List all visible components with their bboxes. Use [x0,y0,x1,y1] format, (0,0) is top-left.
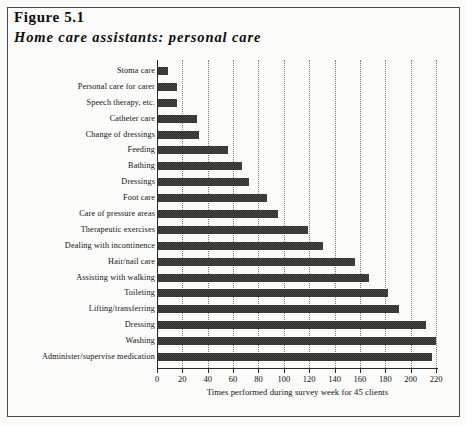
category-label: Bathing [128,162,155,170]
category-label: Administer/supervise medication [42,353,155,361]
x-axis-tick-label: 20 [178,374,187,384]
title-block: Figure 5.1 Home care assistants: persona… [14,8,434,47]
x-axis-tick-label: 120 [303,374,316,384]
category-label: Washing [126,337,156,345]
bar [158,162,242,170]
x-axis-tick-label: 220 [430,374,443,384]
bar [158,99,177,107]
bar [158,289,388,297]
category-label: Catheter care [110,115,155,123]
bar [158,226,308,234]
x-axis-tick-label: 180 [379,374,392,384]
bar [158,337,436,345]
x-axis-tick [258,369,259,373]
figure-subtitle: Home care assistants: personal care [14,28,434,47]
category-label: Speech therapy, etc. [87,99,155,107]
category-label: Dressings [121,178,155,186]
gridline [436,60,437,368]
x-axis-tick-label: 60 [229,374,238,384]
bar [158,321,426,329]
x-axis-tick [309,369,310,373]
x-axis-tick-label: 0 [155,374,159,384]
bar [158,194,267,202]
x-axis-tick [157,369,158,373]
x-axis-tick [411,369,412,373]
bar [158,258,355,266]
x-axis-tick [436,369,437,373]
category-label: Change of dressings [86,131,155,139]
x-axis-tick [284,369,285,373]
x-axis-tick-label: 40 [203,374,212,384]
x-axis-caption: Times performed during survey week for 4… [157,387,438,397]
category-label: Feeding [128,146,155,154]
x-axis-tick-label: 140 [328,374,341,384]
bar [158,67,168,75]
category-label: Hair/nail care [108,258,155,266]
x-axis-tick [233,369,234,373]
bar [158,178,249,186]
category-label: Dealing with incontinence [65,242,155,250]
bar-chart: Stoma carePersonal care for carerSpeech … [0,60,453,405]
bar [158,210,278,218]
bar [158,353,432,361]
category-label: Care of pressure areas [79,210,155,218]
bar [158,274,369,282]
x-axis-tick [182,369,183,373]
category-label: Personal care for carer [78,83,155,91]
x-axis-tick-label: 100 [277,374,290,384]
category-label: Toileting [124,289,155,297]
x-axis-tick [208,369,209,373]
category-label: Dressing [125,321,155,329]
x-axis-tick [360,369,361,373]
bar [158,305,399,313]
plot-area: 020406080100120140160180200220 [157,60,438,368]
bar [158,131,199,139]
bar [158,83,177,91]
x-axis-tick [385,369,386,373]
category-label: Stoma care [117,67,155,75]
figure-page: Figure 5.1 Home care assistants: persona… [0,0,467,426]
bar [158,115,197,123]
x-axis-tick-label: 200 [404,374,417,384]
x-axis-tick-label: 80 [254,374,263,384]
x-axis-tick [335,369,336,373]
category-label: Assisting with walking [76,274,155,282]
category-label: Foot care [123,194,155,202]
category-label: Lifting/transferring [89,305,155,313]
bar [158,146,228,154]
bar [158,242,323,250]
category-label: Therapeutic exercises [81,226,155,234]
figure-number: Figure 5.1 [14,8,434,27]
x-axis-tick-label: 160 [354,374,367,384]
x-axis-line [157,368,438,369]
